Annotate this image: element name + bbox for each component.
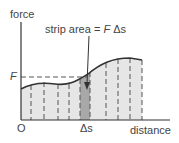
origin-label: O <box>17 123 26 134</box>
x-axis-label: distance <box>130 125 171 136</box>
annotation-ds-symbol: Δs <box>110 23 126 35</box>
f-label: F <box>10 71 17 82</box>
annotation-text: strip area = <box>45 23 103 35</box>
strip-area-annotation: strip area = F Δs <box>45 24 126 35</box>
delta-s-label: Δs <box>80 123 93 134</box>
y-axis-label: force <box>10 9 34 20</box>
highlighted-strip <box>80 72 90 120</box>
